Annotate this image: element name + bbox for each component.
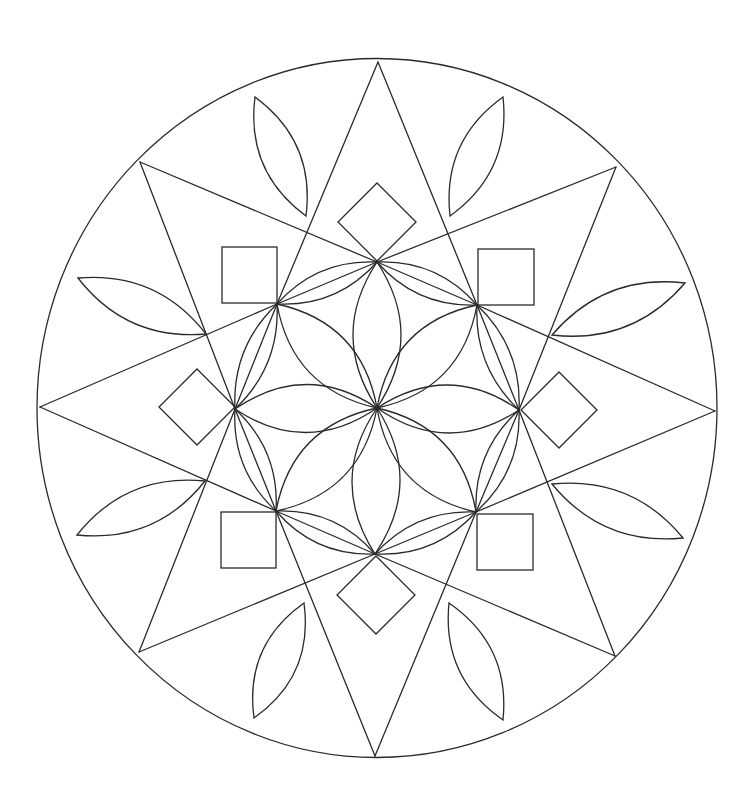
- diamond-bottom: [337, 556, 415, 634]
- square-upper-right: [478, 249, 534, 305]
- leaf-top-left: [254, 97, 308, 216]
- square-upper-left: [222, 247, 277, 303]
- leaf-right-upper: [552, 282, 685, 336]
- mandala-drawing: [0, 0, 743, 803]
- petal-left: [235, 384, 377, 432]
- leaf-right-lower: [552, 483, 683, 539]
- petal-right: [377, 385, 519, 433]
- star-line: [140, 162, 235, 409]
- leaf-left-upper: [78, 277, 206, 334]
- leaf-bottom-right: [448, 603, 504, 720]
- star-line: [139, 554, 375, 652]
- diamond-top: [338, 183, 416, 261]
- star-line: [377, 167, 616, 262]
- star-line: [375, 512, 476, 756]
- petal-down-left: [276, 408, 377, 511]
- petal-down-right: [377, 408, 476, 512]
- petal-down: [352, 408, 400, 554]
- square-lower-right: [477, 514, 533, 570]
- diamond-right: [521, 372, 597, 448]
- petal-up: [353, 262, 401, 408]
- leaf-left-lower: [77, 480, 205, 536]
- leaf-top-right: [449, 97, 504, 216]
- petal-up-right: [377, 305, 477, 408]
- petal-up-left: [277, 304, 377, 408]
- star-line: [375, 554, 615, 656]
- leaf-bottom-left: [253, 603, 306, 718]
- mandala-canvas: [0, 0, 743, 803]
- square-lower-left: [221, 512, 276, 568]
